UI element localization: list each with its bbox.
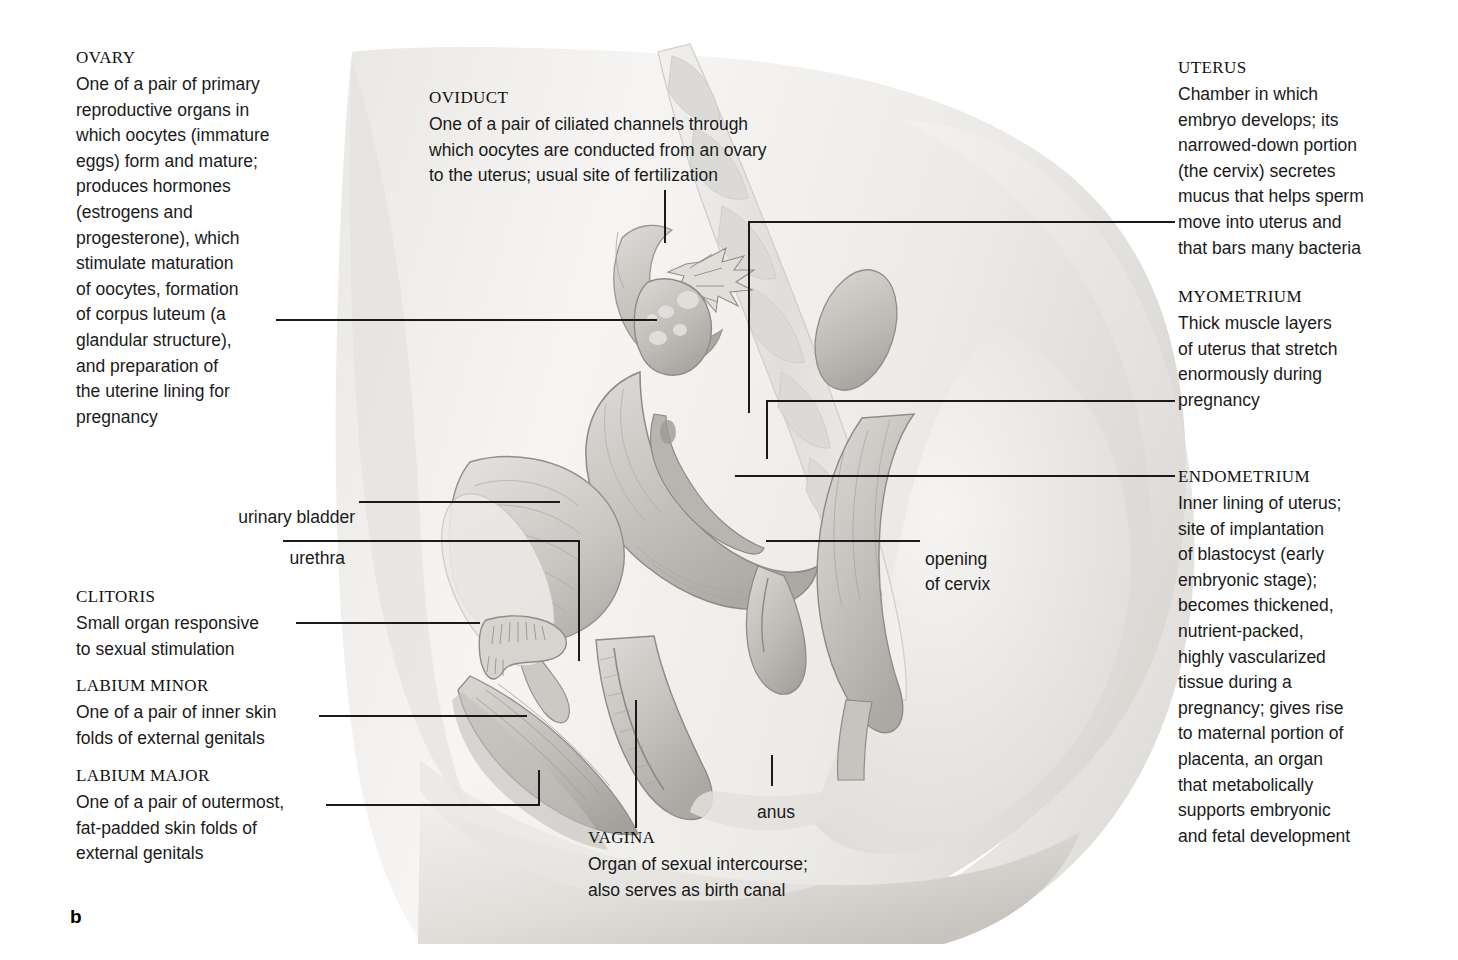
label-urethra: urethra bbox=[140, 546, 345, 572]
label-block-anus: anus bbox=[757, 782, 847, 843]
label-urinary-bladder: urinary bladder bbox=[140, 505, 355, 531]
label-block-ovary: OVARY One of a pair of primary reproduct… bbox=[76, 47, 326, 430]
label-block-oviduct: OVIDUCT One of a pair of ciliated channe… bbox=[429, 87, 859, 189]
heading-oviduct: OVIDUCT bbox=[429, 87, 859, 109]
body-oviduct: One of a pair of ciliated channels throu… bbox=[429, 112, 859, 189]
label-block-labium-major: LABIUM MAJOR One of a pair of outermost,… bbox=[76, 765, 351, 867]
body-labium-major: One of a pair of outermost, fat-padded s… bbox=[76, 790, 351, 867]
label-block-endometrium: ENDOMETRIUM Inner lining of uterus; site… bbox=[1178, 466, 1438, 849]
label-block-urethra: urethra bbox=[140, 528, 345, 589]
figure-page: OVARY One of a pair of primary reproduct… bbox=[0, 0, 1458, 960]
body-labium-minor: One of a pair of inner skin folds of ext… bbox=[76, 700, 341, 751]
label-block-myometrium: MYOMETRIUM Thick muscle layers of uterus… bbox=[1178, 286, 1433, 413]
heading-labium-major: LABIUM MAJOR bbox=[76, 765, 351, 787]
label-block-clitoris: CLITORIS Small organ responsive to sexua… bbox=[76, 586, 326, 662]
body-vagina: Organ of sexual intercourse; also serves… bbox=[588, 852, 888, 903]
heading-labium-minor: LABIUM MINOR bbox=[76, 675, 341, 697]
label-block-opening-of-cervix: opening of cervix bbox=[925, 529, 1045, 615]
body-clitoris: Small organ responsive to sexual stimula… bbox=[76, 611, 326, 662]
label-anus: anus bbox=[757, 800, 847, 826]
body-ovary: One of a pair of primary reproductive or… bbox=[76, 72, 326, 430]
ovary-shape bbox=[634, 279, 711, 375]
label-block-labium-minor: LABIUM MINOR One of a pair of inner skin… bbox=[76, 675, 341, 751]
figure-panel-label: b bbox=[70, 906, 82, 927]
heading-ovary: OVARY bbox=[76, 47, 326, 69]
body-myometrium: Thick muscle layers of uterus that stret… bbox=[1178, 311, 1433, 413]
body-uterus: Chamber in which embryo develops; its na… bbox=[1178, 82, 1433, 261]
body-endometrium: Inner lining of uterus; site of implanta… bbox=[1178, 491, 1438, 849]
heading-myometrium: MYOMETRIUM bbox=[1178, 286, 1433, 308]
label-opening-of-cervix: opening of cervix bbox=[925, 547, 1045, 598]
uterine-cavity bbox=[660, 420, 676, 444]
label-block-uterus: UTERUS Chamber in which embryo develops;… bbox=[1178, 57, 1433, 261]
heading-endometrium: ENDOMETRIUM bbox=[1178, 466, 1438, 488]
heading-clitoris: CLITORIS bbox=[76, 586, 326, 608]
heading-uterus: UTERUS bbox=[1178, 57, 1433, 79]
figure-panel-label-container: b bbox=[70, 906, 110, 928]
